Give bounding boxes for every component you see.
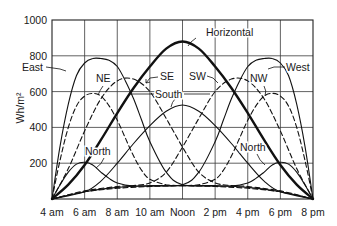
series-label-se: SE: [160, 70, 174, 82]
x-tick-label: 8 am: [106, 206, 130, 218]
solar-irradiance-chart: 2004006008001000 4 am6 am8 am10 amNoon2 …: [0, 0, 337, 226]
series-label-south: South: [155, 88, 183, 100]
series-label-nw: NW: [250, 72, 268, 84]
series-label-west: West: [286, 61, 310, 73]
x-tick-label: 6 am: [73, 206, 97, 218]
y-tick-label: 600: [29, 86, 47, 98]
y-tick-label: 200: [29, 157, 47, 169]
x-tick-label: 6 pm: [269, 206, 293, 218]
x-tick-label: 4 am: [40, 206, 64, 218]
y-axis-tick-labels: 2004006008001000: [24, 14, 48, 169]
series-label-horizontal: Horizontal: [206, 26, 253, 38]
series-label-sw: SW: [189, 70, 206, 82]
grid-lines: [52, 20, 313, 199]
y-tick-label: 400: [29, 121, 47, 133]
y-axis-title: Wh/m²: [14, 92, 26, 123]
x-axis-tick-labels: 4 am6 am8 am10 amNoon2 pm4 pm6 pm8 pm: [40, 206, 325, 218]
series-label-ne: NE: [96, 72, 111, 84]
x-tick-label: Noon: [170, 206, 195, 218]
y-tick-label: 800: [29, 50, 47, 62]
x-tick-label: 10 am: [135, 206, 164, 218]
y-tick-label: 1000: [24, 14, 48, 26]
series-label-north: North: [240, 141, 266, 153]
x-tick-label: 8 pm: [301, 206, 325, 218]
x-tick-label: 2 pm: [203, 206, 227, 218]
series-label-north: North: [85, 145, 111, 157]
x-tick-label: 4 pm: [236, 206, 260, 218]
series-label-east: East: [22, 61, 43, 73]
